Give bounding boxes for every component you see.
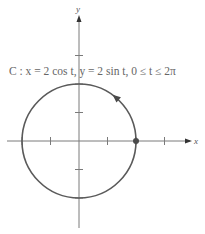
y-axis-arrow-icon: [77, 15, 82, 22]
y-axis-label: y: [75, 4, 80, 14]
axes: x y: [7, 4, 198, 228]
parametric-circle-diagram: x y C : x = 2 cos t, y = 2 sin t, 0 ≤ t …: [0, 0, 205, 234]
x-axis-label: x: [193, 136, 198, 146]
curve-equation-label: C : x = 2 cos t, y = 2 sin t, 0 ≤ t ≤ 2π: [9, 65, 176, 78]
x-axis-arrow-icon: [185, 139, 192, 144]
start-point: [133, 138, 139, 144]
